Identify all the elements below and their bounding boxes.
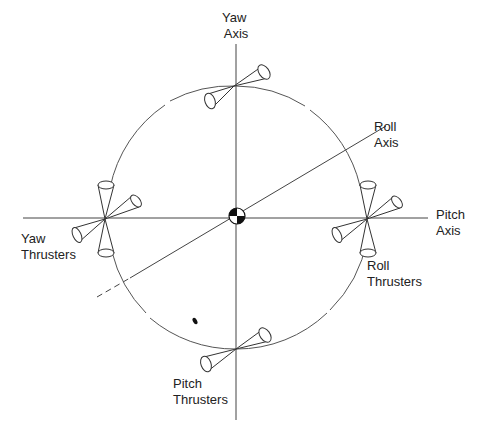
pitch-axis-label: Pitch Axis <box>436 207 469 238</box>
roll-axis-line <box>130 126 386 278</box>
thruster-diagram: Yaw Axis Roll Axis Pitch Axis Yaw Thrust… <box>0 0 484 433</box>
roll-thrusters-label: Roll Thrusters <box>367 258 422 289</box>
stray-mark <box>192 317 199 325</box>
yaw-axis-label: Yaw Axis <box>222 10 250 41</box>
roll-thrusters-icon <box>330 181 405 257</box>
yaw-thrusters-icon <box>70 181 144 257</box>
pitch-thrusters-label: Pitch Thrusters <box>173 376 228 407</box>
roll-axis-dashed <box>97 278 130 297</box>
roll-axis-label: Roll Axis <box>374 119 400 150</box>
yaw-thrusters-label: Yaw Thrusters <box>21 231 76 262</box>
center-of-gravity-icon <box>229 208 245 224</box>
